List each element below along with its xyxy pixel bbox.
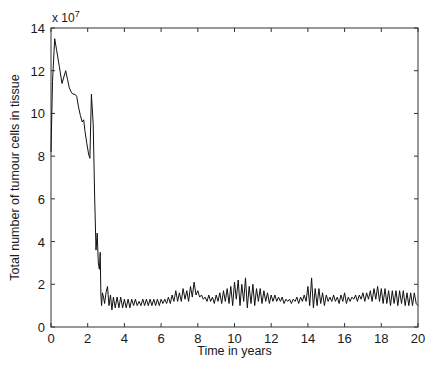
y-axis-multiplier: x 107 bbox=[52, 9, 80, 25]
y-tick-label: 10 bbox=[31, 106, 45, 121]
x-tick-label: 20 bbox=[411, 331, 425, 346]
x-tick-label: 16 bbox=[337, 331, 351, 346]
chart-canvas: 02468101214161820 02468101214 x 107 Time… bbox=[0, 0, 434, 370]
x-tick-label: 2 bbox=[84, 331, 91, 346]
y-tick-label: 0 bbox=[38, 320, 45, 335]
y-tick-label: 2 bbox=[38, 277, 45, 292]
y-tick-label: 4 bbox=[38, 235, 45, 250]
x-axis-label: Time in years bbox=[197, 344, 272, 358]
y-axis-ticks: 02468101214 bbox=[31, 21, 418, 335]
x-tick-label: 14 bbox=[301, 331, 315, 346]
data-series-line bbox=[51, 39, 418, 310]
x-tick-label: 4 bbox=[121, 331, 128, 346]
y-tick-label: 8 bbox=[38, 149, 45, 164]
x-tick-label: 6 bbox=[157, 331, 164, 346]
y-axis-label: Total number of tumour cells in tissue bbox=[8, 74, 22, 280]
x-tick-label: 0 bbox=[47, 331, 54, 346]
y-tick-label: 12 bbox=[31, 64, 45, 79]
y-tick-label: 14 bbox=[31, 21, 45, 36]
y-tick-label: 6 bbox=[38, 192, 45, 207]
x-tick-label: 18 bbox=[374, 331, 388, 346]
